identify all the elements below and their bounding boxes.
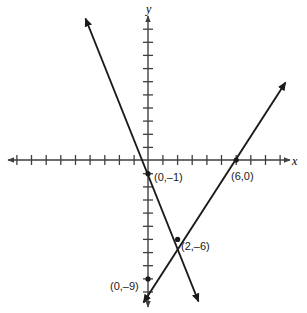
point-label-6-0: (6,0) (231, 171, 254, 182)
coordinate-plane-figure: y x (0,–1) (6,0) (2,–6) (0,–9) (0, 0, 307, 313)
line-ascending (144, 83, 286, 303)
point-dot-6-0 (234, 157, 239, 162)
point-dot-2-neg6 (175, 237, 180, 242)
y-axis-label: y (146, 3, 151, 15)
point-dot-0-neg9 (145, 276, 150, 281)
point-label-2-neg6: (2,–6) (181, 241, 210, 252)
point-dot-0-neg1 (145, 171, 150, 176)
graph-canvas (0, 0, 307, 313)
point-label-0-neg9: (0,–9) (110, 281, 139, 292)
point-label-0-neg1: (0,–1) (154, 172, 183, 183)
y-axis (143, 16, 153, 307)
x-axis-label: x (292, 155, 297, 167)
x-axis (8, 155, 290, 165)
